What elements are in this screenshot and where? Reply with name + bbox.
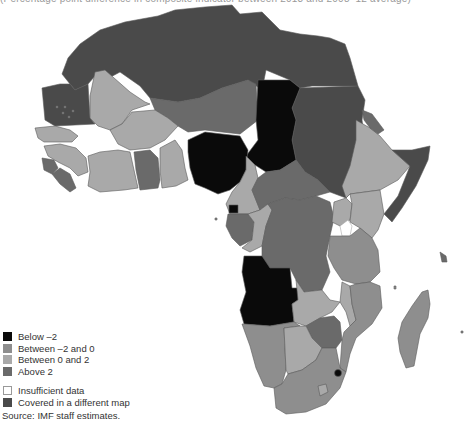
legend-label: Insufficient data (18, 385, 84, 396)
region-cote-divoire (88, 150, 138, 192)
region-liberia (52, 168, 76, 192)
legend-swatch (3, 332, 12, 341)
legend-swatch (3, 355, 12, 364)
region-comoros (394, 286, 396, 289)
region-kenya (350, 190, 384, 238)
legend-label: Between 0 and 2 (18, 354, 89, 365)
legend-label: Below –2 (18, 331, 57, 342)
region-gabon (226, 214, 254, 246)
region-madagascar (398, 290, 430, 368)
map-legend: Below –2 Between –2 and 0 Between 0 and … (3, 331, 130, 408)
region-mauritius (461, 331, 463, 333)
legend-item-insufficient-data: Insufficient data (3, 385, 130, 397)
legend-swatch (3, 398, 12, 407)
region-seychelles (440, 252, 447, 262)
region-mauritania (42, 84, 95, 126)
legend-swatch (3, 344, 12, 353)
legend-item-between-0-2: Between 0 and 2 (3, 354, 130, 366)
region-benin (160, 140, 188, 188)
legend-item-above-2: Above 2 (3, 366, 130, 378)
legend-label: Covered in a different map (18, 397, 130, 408)
source-note: Source: IMF staff estimates. (2, 410, 120, 421)
legend-item-between-neg2-0: Between –2 and 0 (3, 343, 130, 355)
legend-item-different-map: Covered in a different map (3, 397, 130, 409)
region-senegal (35, 126, 78, 142)
region-ghana (134, 150, 160, 190)
legend-label: Between –2 and 0 (18, 343, 95, 354)
legend-swatch (3, 386, 12, 395)
legend-item-below-neg2: Below –2 (3, 331, 130, 343)
region-sao-tome (215, 218, 217, 220)
legend-swatch (3, 367, 12, 376)
region-equatorial-guinea (229, 205, 238, 213)
legend-label: Above 2 (18, 366, 53, 377)
region-swaziland (335, 370, 342, 377)
